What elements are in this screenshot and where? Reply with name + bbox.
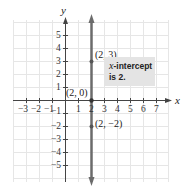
y-tick-neg5: −5 — [51, 160, 61, 170]
y-axis-label: y — [61, 5, 66, 15]
x-tick-neg1: −1 — [44, 104, 54, 114]
coordinate-plane — [0, 0, 184, 190]
point-2-neg2 — [90, 125, 94, 129]
x-tick-1: 1 — [76, 104, 81, 114]
y-tick-5: 5 — [56, 30, 61, 40]
x-tick-3: 3 — [102, 104, 107, 114]
callout-line2: is 2. — [109, 72, 155, 83]
x-tick-neg2: −2 — [31, 104, 41, 114]
x-axis-label: x — [175, 95, 180, 105]
y-axis-arrow-icon — [63, 17, 68, 24]
line-bottom-arrow-icon — [89, 177, 95, 186]
x-tick-6: 6 — [141, 104, 146, 114]
y-tick-2: 2 — [56, 69, 61, 79]
y-tick-neg3: −3 — [51, 134, 61, 144]
line-top-arrow-icon — [89, 14, 95, 23]
point-2-3 — [90, 60, 94, 64]
point-label-2-0: (2, 0) — [66, 88, 88, 98]
x-tick-5: 5 — [128, 104, 133, 114]
y-axis — [63, 22, 68, 182]
y-tick-1: 1 — [56, 82, 61, 92]
y-tick-3: 3 — [56, 56, 61, 66]
callout-line1: -intercept — [113, 61, 152, 71]
y-tick-neg4: −4 — [51, 147, 61, 157]
x-tick-7: 7 — [154, 104, 159, 114]
point-label-2-neg2: (2, −2) — [95, 119, 122, 129]
y-tick-neg2: −2 — [51, 121, 61, 131]
x-tick-2: 2 — [89, 104, 94, 114]
y-tick-4: 4 — [56, 43, 61, 53]
x-tick-neg3: −3 — [18, 104, 28, 114]
x-tick-4: 4 — [115, 104, 120, 114]
point-2-0 — [89, 98, 93, 102]
x-intercept-callout: x-intercept is 2. — [104, 57, 155, 86]
